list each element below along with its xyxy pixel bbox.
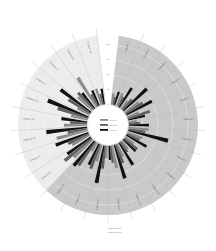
footnote-line: Footnote line 2 xyxy=(108,231,122,233)
tick-label: 50 xyxy=(107,73,110,75)
legend-label: Series A xyxy=(110,119,118,121)
radial-axis-ticks: 0255075100 xyxy=(106,43,110,105)
tick-label: 25 xyxy=(107,88,110,90)
tick-label: 0 xyxy=(107,103,109,105)
footnote-line: Footnote line 1 xyxy=(108,227,122,229)
legend-label: Series B xyxy=(110,124,118,126)
tick-label: 100 xyxy=(106,43,110,45)
footnote: Footnote line 1Footnote line 2 xyxy=(108,227,122,233)
legend-swatch xyxy=(100,129,108,131)
tick-label: 75 xyxy=(107,58,110,60)
legend-label: Series C xyxy=(110,129,118,131)
legend-swatch xyxy=(100,119,108,121)
radial-bar-chart: Category 1Category 2Category 3Category 4… xyxy=(0,0,216,251)
legend-swatch xyxy=(100,124,108,126)
